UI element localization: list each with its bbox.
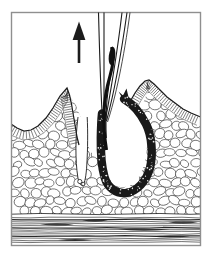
arrow-head <box>73 22 86 41</box>
illustration-page <box>0 0 213 261</box>
muscle-layer-texture <box>11 213 201 242</box>
forceps-left-jaw-line <box>99 13 103 120</box>
canal-papilla-bump <box>82 182 85 185</box>
up-arrow-icon <box>73 22 86 64</box>
canal-papilla-bump <box>78 179 82 183</box>
empty-follicle-canal <box>76 117 88 186</box>
diagram-canvas <box>0 0 213 261</box>
